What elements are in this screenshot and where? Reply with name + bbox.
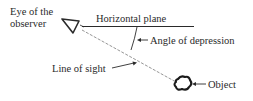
object-icon [175,76,192,89]
object-arrow [192,82,206,86]
angle-arrow [137,38,148,42]
horizontal-plane-label: Horizontal plane [96,13,166,24]
line-of-sight-arrow [112,62,137,69]
angle-of-depression-label: Angle of depression [150,35,235,46]
angle-arc [131,27,137,50]
line-of-sight-label: Line of sight [52,63,106,74]
eye-label-line2: observer [10,18,46,29]
eye-icon [62,19,79,33]
eye-label-line1: Eye of the [10,6,53,17]
object-label: Object [208,79,236,90]
